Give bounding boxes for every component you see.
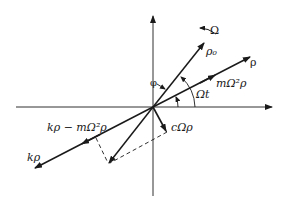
rho-label: ρ <box>250 57 256 68</box>
spring-label: kρ <box>27 152 40 163</box>
damping-vector <box>153 107 166 131</box>
omega-t-label: Ωt <box>196 89 210 100</box>
rho-0-label: ρ₀ <box>206 46 217 57</box>
centrifugal-arrow <box>200 75 215 83</box>
damping-label: cΩρ <box>171 122 193 133</box>
small-angle-arc <box>176 97 178 107</box>
diagram-canvas <box>0 0 282 200</box>
dashed-line-2 <box>96 138 108 163</box>
phi-label: φ <box>150 78 157 88</box>
resultant-vector <box>109 107 153 163</box>
vector-diagram: Ω ρ₀ ρ mΩ²ρ Ωt φ cΩρ kρ − mΩ²ρ kρ <box>0 0 282 200</box>
dashed-line-1 <box>110 132 167 163</box>
centrifugal-label: mΩ²ρ <box>216 78 246 89</box>
net-spring-label: kρ − mΩ²ρ <box>47 122 107 133</box>
dashed-line-3 <box>166 131 167 132</box>
omega-label: Ω <box>210 25 219 36</box>
phi-pointer <box>157 84 165 89</box>
net-spring-arrow <box>82 135 100 144</box>
